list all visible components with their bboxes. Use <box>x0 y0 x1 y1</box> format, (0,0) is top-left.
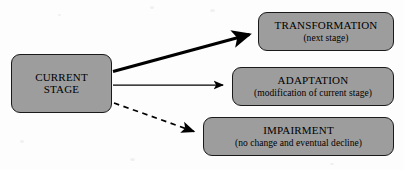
node-current-stage[interactable]: CURRENT STAGE <box>11 54 112 113</box>
node-impairment-subtitle: (no change and eventual decline) <box>235 138 362 148</box>
node-adaptation-subtitle: (modification of current stage) <box>254 88 372 98</box>
diagram-canvas: CURRENT STAGE TRANSFORMATION (next stage… <box>0 0 404 170</box>
node-current-stage-line2: STAGE <box>44 84 80 96</box>
node-adaptation[interactable]: ADAPTATION (modification of current stag… <box>232 67 394 106</box>
node-transformation[interactable]: TRANSFORMATION (next stage) <box>258 12 394 51</box>
scan-speck <box>130 158 135 161</box>
scan-speck <box>330 163 334 165</box>
node-impairment[interactable]: IMPAIRMENT (no change and eventual decli… <box>203 117 394 156</box>
edge-to-transformation <box>113 35 250 72</box>
scan-speck <box>20 140 24 143</box>
node-current-stage-line1: CURRENT <box>35 72 88 84</box>
node-transformation-title: TRANSFORMATION <box>274 20 377 32</box>
node-transformation-subtitle: (next stage) <box>303 33 348 43</box>
node-adaptation-title: ADAPTATION <box>278 75 349 87</box>
edge-to-impairment <box>114 103 194 132</box>
node-impairment-title: IMPAIRMENT <box>263 125 334 137</box>
scan-speck <box>210 9 215 12</box>
scan-speck <box>58 14 61 16</box>
scan-speck <box>150 6 154 9</box>
